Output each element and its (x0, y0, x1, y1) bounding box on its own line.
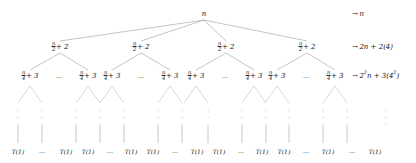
fraction: n 4 (188, 69, 192, 81)
fraction: n 2 (52, 40, 56, 52)
tree-node-level1-4: n 2 + 2 (299, 41, 316, 53)
tree-node-root: n (202, 10, 207, 18)
fraction: n 2 (299, 40, 303, 52)
level2-ellipsis-3: ⋯ (222, 74, 229, 80)
vertical-ellipsis: ... (181, 106, 183, 126)
vertical-ellipsis: ... (75, 106, 77, 126)
level-cost-label-2: →22n + 3(42) (352, 73, 399, 80)
vertical-ellipsis: ... (123, 106, 125, 126)
fraction: n 4 (327, 69, 331, 81)
leaf-node: T(1) (125, 149, 138, 155)
level1-edges (30, 53, 335, 70)
tree-node-level2-6: n 4 + 3 (246, 70, 263, 82)
level2-ellipsis-2: ⋯ (138, 74, 145, 80)
vertical-ellipsis: ... (265, 106, 267, 126)
level2-ellipsis-4: ⋯ (303, 74, 310, 80)
vertical-ellipsis: ... (207, 106, 209, 126)
leaf-stems (18, 126, 347, 143)
edge-root-to-child-3 (204, 20, 226, 41)
fraction: n 4 (269, 69, 273, 81)
edge-root-to-child-4 (204, 20, 307, 41)
tree-edges (0, 0, 416, 163)
fraction: n 4 (246, 69, 250, 81)
fraction: n 4 (104, 69, 108, 81)
vertical-ellipsis: ... (322, 106, 324, 126)
tree-node-level2-4: n 4 + 3 (162, 70, 179, 82)
edge-l1c3-right (226, 53, 254, 70)
leaf-node: T(1) (256, 149, 269, 155)
level-cost-label-1: →2n + 2(4) (352, 44, 393, 51)
vertical-ellipsis: ... (157, 106, 159, 126)
vertical-ellipsis: ... (17, 106, 19, 126)
leaf-ellipsis: ⋯ (39, 149, 46, 155)
root-node-label: n (202, 11, 207, 18)
leaf-ellipsis: ⋯ (349, 149, 356, 155)
edge-root-to-child-1 (60, 20, 204, 41)
tree-node-level1-2: n 2 + 2 (133, 41, 150, 53)
vertical-ellipsis: ... (41, 106, 43, 126)
vertical-ellipsis: ... (288, 106, 290, 126)
tree-node-level1-3: n 2 + 2 (218, 41, 235, 53)
leaf-ellipsis: ⋯ (238, 149, 245, 155)
leaf-ellipsis: ⋯ (303, 149, 310, 155)
vertical-ellipsis: ... (99, 106, 101, 126)
level2-ellipsis-1: ⋯ (56, 74, 63, 80)
fraction: n 4 (80, 69, 84, 81)
leaf-ellipsis: ⋯ (172, 149, 179, 155)
tree-node-level2-3: n 4 + 3 (104, 70, 121, 82)
leaf-node: T(1) (191, 149, 204, 155)
leaf-node: T(1) (82, 149, 95, 155)
root-edges (60, 20, 307, 41)
level2-subtree-wedges (18, 86, 347, 103)
tree-node-level2-1: n 4 + 3 (22, 70, 39, 82)
edge-l1c3-left (196, 53, 226, 70)
edge-l1c4-right (307, 53, 335, 70)
leaf-node: T(1) (12, 149, 25, 155)
fraction: n 2 (218, 40, 222, 52)
leaf-node: T(1) (213, 149, 226, 155)
leaf-ellipsis: ⋯ (107, 149, 114, 155)
leaf-node: T(1) (147, 149, 160, 155)
tree-node-level2-8: n 4 + 3 (327, 70, 344, 82)
leaf-node: T(1) (278, 149, 291, 155)
fraction: n 4 (162, 69, 166, 81)
tree-node-level1-1: n 2 + 2 (52, 41, 69, 53)
edge-l1c2-left (112, 53, 141, 70)
vertical-ellipsis-far-right: ... (385, 106, 387, 126)
edge-l1c1-right (60, 53, 88, 70)
leaf-node: T(1) (60, 149, 73, 155)
tree-node-level2-2: n 4 + 3 (80, 70, 97, 82)
recursion-tree-diagram: n n 2 + 2 n 2 + 2 n 2 + 2 n 2 + 2 n (0, 0, 416, 163)
leaf-node: T(1) (322, 149, 335, 155)
tree-node-level2-7: n 4 + 3 (269, 70, 286, 82)
vertical-ellipsis: ... (241, 106, 243, 126)
level-cost-label-0: →n (352, 11, 364, 18)
tree-node-level2-5: n 4 + 3 (188, 70, 205, 82)
vertical-ellipsis: ... (346, 106, 348, 126)
fraction: n 2 (133, 40, 137, 52)
fraction: n 4 (22, 69, 26, 81)
edge-l1c2-right (141, 53, 170, 70)
edge-l1c1-left (30, 53, 60, 70)
edge-root-to-child-2 (141, 20, 204, 41)
edge-l1c4-left (277, 53, 307, 70)
leaf-node: T(1) (369, 149, 382, 155)
